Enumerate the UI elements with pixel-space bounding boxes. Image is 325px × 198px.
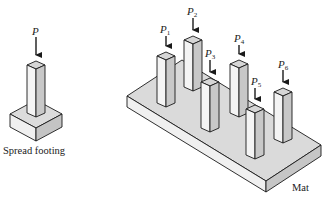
column-6	[274, 88, 292, 143]
column-5	[246, 105, 264, 159]
column-3	[201, 78, 219, 132]
column-1	[157, 52, 175, 107]
load-label-p2: P2	[186, 5, 198, 19]
load-label-p6: P6	[277, 58, 289, 72]
spread-footing-caption: Spread footing	[3, 145, 65, 156]
load-label-p5: P5	[250, 75, 262, 89]
spread-footing	[10, 37, 62, 141]
column-4	[230, 60, 248, 117]
foundation-diagram: P	[0, 0, 325, 198]
mat-caption: Mat	[292, 182, 309, 193]
mat-foundation	[127, 18, 321, 192]
load-label-p: P	[31, 25, 39, 37]
column-2	[184, 36, 202, 91]
load-label-p3: P3	[204, 47, 216, 61]
footing-column	[27, 61, 45, 117]
load-label-p1: P1	[159, 23, 171, 37]
load-label-p4: P4	[233, 32, 245, 46]
